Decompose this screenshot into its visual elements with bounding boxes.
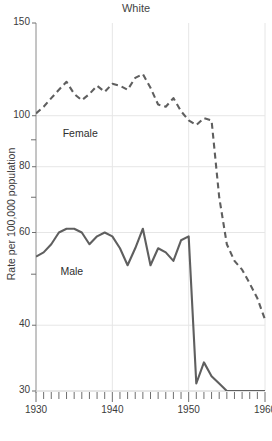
series-annotation-female: Female bbox=[63, 127, 98, 139]
x-tick-label: 1950 bbox=[167, 404, 211, 415]
x-tick-label: 1960 bbox=[243, 404, 272, 415]
y-tick-label: 60 bbox=[0, 226, 30, 237]
series-line-female bbox=[36, 74, 265, 320]
plot-area bbox=[0, 0, 272, 441]
chart-figure: White Rate per 100,000 population 150100… bbox=[0, 0, 272, 441]
x-tick-label: 1930 bbox=[14, 404, 58, 415]
y-tick-label: 40 bbox=[0, 318, 30, 329]
y-tick-label: 30 bbox=[0, 384, 30, 395]
y-tick-label: 150 bbox=[0, 16, 30, 27]
x-tick-label: 1940 bbox=[90, 404, 134, 415]
y-tick-label: 100 bbox=[0, 109, 30, 120]
y-tick-label: 80 bbox=[0, 160, 30, 171]
series-annotation-male: Male bbox=[60, 265, 83, 277]
